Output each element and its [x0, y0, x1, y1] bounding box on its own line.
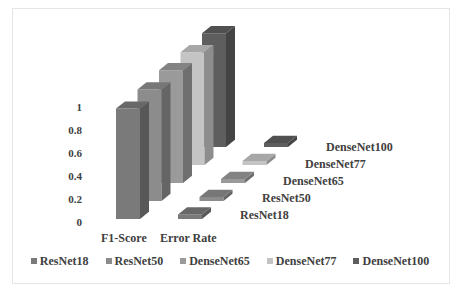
legend-swatch: [353, 258, 359, 264]
bar-densenet77-f1-score-side: [205, 45, 214, 165]
bar-resnet18-f1-score-side: [140, 101, 149, 219]
depth-label-resnet18: ResNet18: [240, 208, 289, 223]
legend-item-resnet18: ResNet18: [31, 254, 89, 269]
bar-densenet77-error-rate-front: [243, 161, 267, 165]
legend-swatch: [31, 258, 37, 264]
legend-item-densenet100: DenseNet100: [353, 254, 429, 269]
depth-label-resnet50: ResNet50: [262, 191, 311, 206]
legend-item-densenet77: DenseNet77: [267, 254, 337, 269]
y-tick-0.8: 0.8: [52, 124, 82, 136]
depth-label-densenet100: DenseNet100: [326, 140, 393, 155]
bar-densenet100-f1-score-side: [226, 26, 235, 147]
y-tick-0.6: 0.6: [52, 147, 82, 159]
depth-label-densenet65: DenseNet65: [283, 174, 344, 189]
bar-resnet18-error-rate-front: [178, 214, 202, 219]
legend-swatch: [106, 258, 112, 264]
legend: ResNet18 ResNet50 DenseNet65 DenseNet77 …: [0, 254, 460, 269]
bar-densenet100-error-rate-front: [264, 143, 288, 147]
depth-label-densenet77: DenseNet77: [305, 157, 366, 172]
bar-densenet65-error-rate-front: [221, 179, 245, 183]
legend-item-densenet65: DenseNet65: [180, 254, 250, 269]
y-tick-0: 0: [52, 216, 82, 228]
y-tick-1: 1: [52, 101, 82, 113]
y-tick-0.2: 0.2: [52, 193, 82, 205]
x-category-error-rate: Error Rate: [160, 231, 217, 246]
legend-swatch: [180, 258, 186, 264]
legend-item-resnet50: ResNet50: [106, 254, 164, 269]
y-tick-0.4: 0.4: [52, 170, 82, 182]
bar-densenet65-f1-score-side: [183, 63, 192, 183]
x-category-f1-score: F1-Score: [101, 231, 147, 246]
bar-resnet50-error-rate-front: [200, 197, 224, 201]
bar-resnet50-f1-score-side: [162, 82, 171, 201]
legend-swatch: [267, 258, 273, 264]
bar-resnet18-f1-score-front: [116, 109, 140, 219]
